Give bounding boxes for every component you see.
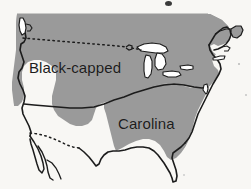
range-label-carolina: Carolina bbox=[118, 116, 175, 131]
chickadee-range-map: Black-capped Carolina bbox=[0, 0, 251, 189]
range-map-graphic bbox=[0, 0, 251, 189]
range-label-black-capped: Black-capped bbox=[29, 60, 121, 75]
